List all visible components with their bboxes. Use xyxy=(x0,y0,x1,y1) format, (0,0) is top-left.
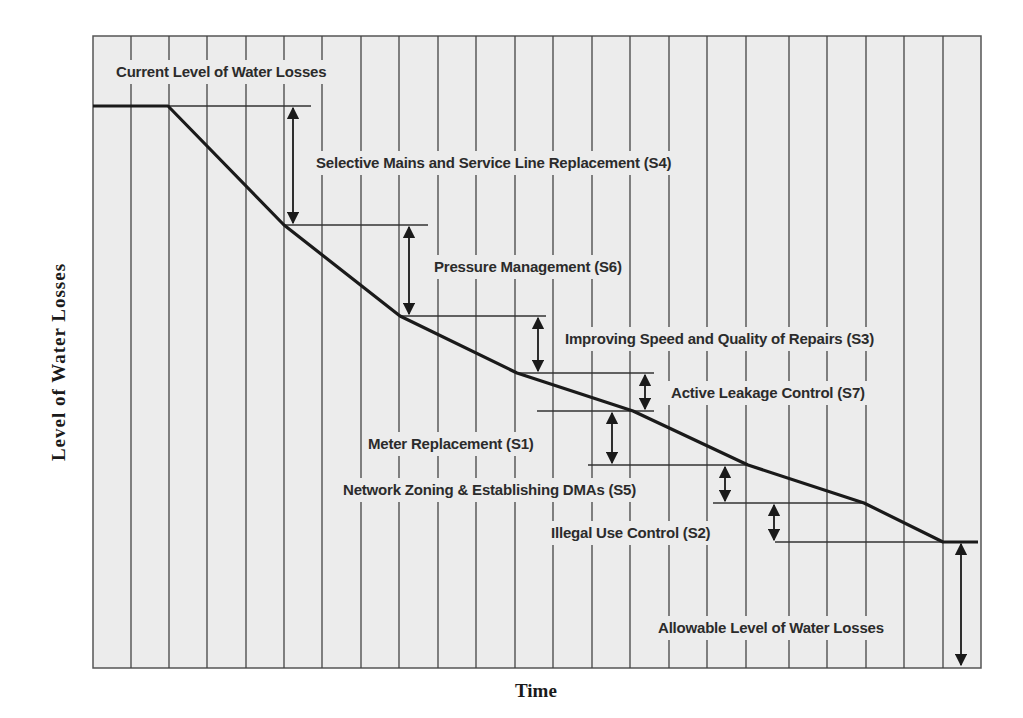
strategy-label-s6: Pressure Management (S6) xyxy=(428,255,628,279)
current-level-label: Current Level of Water Losses xyxy=(110,60,332,84)
allowable-level-label: Allowable Level of Water Losses xyxy=(652,616,890,640)
strategy-label-s2: Illegal Use Control (S2) xyxy=(545,521,716,545)
strategy-label-s3: Improving Speed and Quality of Repairs (… xyxy=(559,327,880,351)
strategy-label-s5: Network Zoning & Establishing DMAs (S5) xyxy=(337,478,642,502)
plot-frame xyxy=(93,36,981,668)
water-loss-reduction-diagram: Current Level of Water Losses Selective … xyxy=(0,0,1023,718)
diagram-canvas xyxy=(0,0,1023,718)
strategy-label-s1: Meter Replacement (S1) xyxy=(362,432,540,456)
strategy-label-s7: Active Leakage Control (S7) xyxy=(665,381,871,405)
x-axis-label: Time xyxy=(515,680,557,702)
y-axis-label: Level of Water Losses xyxy=(48,263,70,461)
strategy-label-s4: Selective Mains and Service Line Replace… xyxy=(310,151,677,175)
